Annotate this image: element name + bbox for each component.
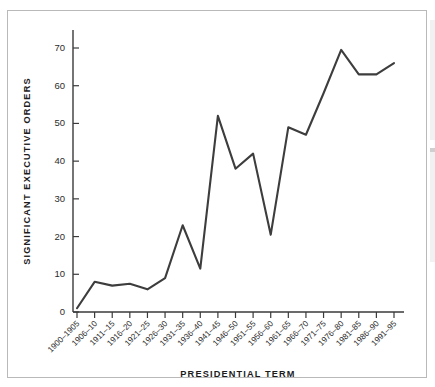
- x-axis-ticks: [77, 312, 394, 318]
- data-series-line: [77, 50, 394, 308]
- y-tick-label: 20: [54, 231, 65, 242]
- y-tick-label: 70: [54, 42, 65, 53]
- y-tick-label: 10: [54, 268, 65, 279]
- x-axis-title: PRESIDENTIAL TERM: [180, 369, 295, 379]
- y-tick-label: 60: [54, 80, 65, 91]
- y-axis-ticks: [73, 48, 79, 312]
- y-tick-label: 50: [54, 117, 65, 128]
- y-axis-tick-labels: 010203040506070: [54, 42, 65, 317]
- y-axis-title: SIGNIFICANT EXECUTIVE ORDERS: [22, 77, 32, 264]
- line-chart: 010203040506070 1900–19051906–101911–151…: [0, 0, 435, 387]
- y-tick-label: 40: [54, 155, 65, 166]
- x-axis-tick-labels: 1900–19051906–101911–151916–201921–25192…: [46, 319, 399, 355]
- y-tick-label: 30: [54, 193, 65, 204]
- chart-page: 010203040506070 1900–19051906–101911–151…: [0, 0, 435, 387]
- y-tick-label: 0: [60, 306, 65, 317]
